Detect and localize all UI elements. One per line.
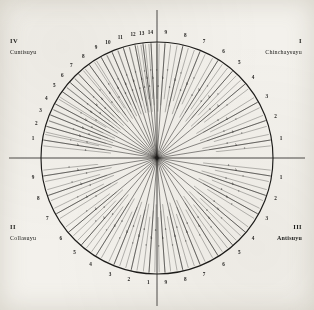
ray-sub-label: c bbox=[86, 209, 88, 213]
ceque-sub-ray bbox=[200, 115, 263, 140]
ray-sub-label: a bbox=[95, 118, 97, 122]
ceque-sub-ray bbox=[49, 121, 113, 143]
ceque-sub-ray bbox=[82, 198, 122, 244]
center-point-coricancha bbox=[156, 157, 159, 160]
ceque-number-label: 8 bbox=[184, 32, 187, 38]
ray-sub-label: c bbox=[221, 216, 223, 220]
ray-sub-label: a bbox=[139, 86, 141, 90]
ceque-number-label: 8 bbox=[37, 195, 40, 201]
ray-sub-label: c bbox=[238, 189, 240, 193]
ray-sub-label: a bbox=[133, 224, 135, 228]
ceque-number-label: 5 bbox=[238, 59, 241, 65]
ray-sub-label: b bbox=[82, 126, 84, 130]
ray-sub-label: a bbox=[125, 91, 127, 95]
ray-sub-label: a bbox=[91, 125, 93, 129]
ray-sub-label: b bbox=[186, 82, 188, 86]
ray-sub-label: a bbox=[144, 227, 146, 231]
quadrant-name-chinchaysuyu: Chinchaysuyu bbox=[265, 48, 302, 57]
ray-sub-label: c bbox=[185, 239, 187, 243]
ray-sub-label: c bbox=[242, 174, 244, 178]
ray-sub-label: b bbox=[96, 103, 98, 107]
ceque-sub-ray bbox=[177, 207, 200, 264]
ceque-sub-ray bbox=[54, 110, 115, 139]
ceque-sub-ray bbox=[169, 47, 183, 107]
ceque-number-label: 9 bbox=[164, 29, 167, 35]
ceque-number-label: 4 bbox=[252, 235, 255, 241]
ceque-sub-ray bbox=[57, 184, 111, 214]
ceque-number-label: 1 bbox=[32, 135, 35, 141]
ray-sub-label: c bbox=[172, 243, 174, 247]
ray-sub-label: b bbox=[199, 224, 201, 228]
ceque-sub-ray bbox=[207, 175, 265, 195]
ray-sub-label: b bbox=[109, 91, 111, 95]
ray-sub-label: b bbox=[91, 110, 93, 114]
ray-sub-label: a bbox=[228, 163, 230, 167]
ceque-sub-ray bbox=[124, 49, 142, 108]
ray-sub-label: b bbox=[174, 78, 176, 82]
ray-sub-label: a bbox=[149, 84, 151, 88]
ray-sub-label: c bbox=[146, 243, 148, 247]
ray-sub-label: b bbox=[232, 182, 234, 186]
quadrant-roman-iv: IV bbox=[10, 36, 36, 45]
ceque-number-label: 2 bbox=[35, 120, 38, 126]
ray-sub-label: c bbox=[87, 102, 89, 106]
ceque-sub-ray bbox=[207, 121, 265, 141]
ray-sub-label: a bbox=[95, 194, 97, 198]
ray-sub-label: b bbox=[104, 216, 106, 220]
ceque-sub-ray bbox=[51, 175, 114, 200]
ceque-sub-ray bbox=[180, 58, 213, 117]
ray-sub-label: c bbox=[144, 69, 146, 73]
ceque-sub-ray bbox=[169, 209, 183, 269]
ray-sub-label: b bbox=[152, 76, 154, 80]
quadrant-name-collasuyu: Collasuyu bbox=[10, 234, 36, 243]
ceque-sub-ray bbox=[73, 190, 123, 236]
ceque-number-label: 7 bbox=[70, 62, 73, 68]
ray-sub-label: b bbox=[79, 134, 81, 138]
ray-sub-label: b bbox=[133, 79, 135, 83]
ceque-sub-ray bbox=[163, 204, 171, 271]
ceque-sub-ray bbox=[67, 88, 110, 122]
ceque-number-label: 2 bbox=[127, 276, 130, 282]
ceque-number-label: 12 bbox=[130, 31, 136, 37]
ray-sub-label: b bbox=[125, 82, 127, 86]
ceque-number-label: 4 bbox=[45, 95, 48, 101]
ray-sub-label: c bbox=[158, 244, 160, 248]
ceque-number-label: 5 bbox=[53, 82, 56, 88]
quadrant-label-cuntisuyu: IV Cuntisuyu bbox=[10, 36, 36, 57]
ray-sub-label: b bbox=[80, 182, 82, 186]
ceque-number-label: 6 bbox=[60, 235, 63, 241]
ceque-number-label: 3 bbox=[265, 93, 268, 99]
ray-sub-label: a bbox=[132, 88, 134, 92]
ray-sub-label: a bbox=[85, 148, 87, 152]
ceque-sub-ray bbox=[114, 207, 137, 264]
ceque-number-label: 9 bbox=[95, 44, 98, 50]
ceque-number-label: 1 bbox=[147, 279, 150, 285]
ceque-sub-ray bbox=[131, 209, 145, 269]
ray-sub-label: c bbox=[156, 68, 158, 72]
ceque-sub-ray bbox=[107, 55, 137, 116]
ceque-diagram-figure: abcabcabcabcabcabcabcabcabcabcabcabcabca… bbox=[0, 0, 314, 310]
quadrant-label-antisuyu: III Antisuyu bbox=[277, 222, 302, 243]
ceque-number-label: 9 bbox=[32, 174, 35, 180]
ceque-number-label: 6 bbox=[222, 261, 225, 267]
ray-sub-label: b bbox=[217, 207, 219, 211]
ray-sub-label: b bbox=[146, 76, 148, 80]
ray-sub-label: a bbox=[158, 84, 160, 88]
ceque-number-label: 2 bbox=[274, 195, 277, 201]
ceque-number-label: 1 bbox=[280, 135, 283, 141]
ray-sub-label: b bbox=[85, 118, 87, 122]
ceque-sub-ray bbox=[177, 52, 200, 109]
ceque-number-label: 3 bbox=[265, 215, 268, 221]
ray-sub-label: b bbox=[235, 168, 237, 172]
ceque-sub-ray bbox=[194, 186, 248, 227]
ray-sub-label: c bbox=[77, 195, 79, 199]
ray-sub-label: c bbox=[180, 71, 182, 75]
ceque-number-label: 8 bbox=[82, 53, 85, 59]
ceque-number-label: 9 bbox=[164, 279, 167, 285]
ray-sub-label: a bbox=[165, 227, 167, 231]
ray-sub-label: a bbox=[155, 228, 157, 232]
ray-sub-label: a bbox=[180, 88, 182, 92]
ray-sub-label: b bbox=[151, 236, 153, 240]
ceque-number-label: 6 bbox=[222, 48, 225, 54]
ray-sub-label: b bbox=[232, 130, 234, 134]
